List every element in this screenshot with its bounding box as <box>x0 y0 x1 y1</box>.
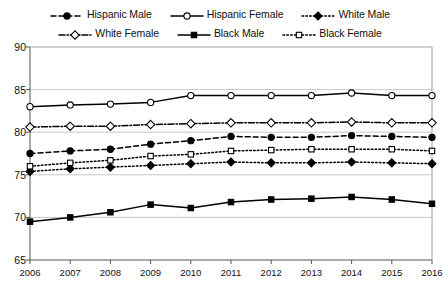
data-point-marker <box>146 120 154 128</box>
legend-item-white_female[interactable]: White Female <box>58 27 159 39</box>
data-point-marker <box>389 197 394 202</box>
data-point-marker <box>268 92 274 98</box>
data-point-marker <box>106 122 114 130</box>
legend-item-white_male[interactable]: White Male <box>301 8 390 20</box>
legend-row-2: White FemaleBlack MaleBlack Female <box>0 23 440 42</box>
series-white_female <box>26 118 436 132</box>
data-point-marker <box>187 160 195 168</box>
data-point-marker <box>187 119 195 127</box>
legend-label: White Female <box>95 27 159 39</box>
data-point-marker <box>269 197 274 202</box>
data-point-marker <box>297 32 302 37</box>
data-point-marker <box>227 119 235 127</box>
legend-label: Hispanic Male <box>87 8 152 20</box>
data-point-marker <box>107 101 113 107</box>
data-point-marker <box>188 152 193 157</box>
data-point-marker <box>268 134 274 140</box>
data-point-marker <box>429 134 435 140</box>
data-point-marker <box>66 122 74 130</box>
chart-legend: Hispanic MaleHispanic FemaleWhite Male W… <box>0 4 440 42</box>
data-point-marker <box>389 133 395 139</box>
data-point-marker <box>188 92 194 98</box>
data-point-marker <box>227 158 235 166</box>
dashdot-open-diamond-marker <box>58 27 92 39</box>
chart-canvas <box>0 42 440 283</box>
data-point-marker <box>429 148 434 153</box>
data-point-marker <box>389 147 394 152</box>
data-point-marker <box>309 196 314 201</box>
data-point-marker <box>388 159 396 167</box>
data-point-marker <box>191 32 196 37</box>
axes <box>26 47 432 264</box>
solid-filled-square-marker <box>177 27 211 39</box>
data-point-marker <box>428 160 436 168</box>
data-point-marker <box>228 92 234 98</box>
data-point-marker <box>68 215 73 220</box>
legend-item-hispanic_male[interactable]: Hispanic Male <box>50 8 152 20</box>
data-point-marker <box>108 210 113 215</box>
data-point-marker <box>267 119 275 127</box>
legend-label: Hispanic Female <box>207 8 284 20</box>
data-point-marker <box>148 141 154 147</box>
data-point-marker <box>27 104 33 110</box>
data-point-marker <box>148 99 154 105</box>
data-point-marker <box>267 159 275 167</box>
data-point-marker <box>188 138 194 144</box>
data-point-marker <box>429 201 434 206</box>
data-point-marker <box>107 146 113 152</box>
series-hispanic_female <box>27 90 435 110</box>
data-point-marker <box>348 158 356 166</box>
gridlines <box>30 47 432 217</box>
data-point-marker <box>349 147 354 152</box>
data-point-marker <box>148 202 153 207</box>
series-black_male <box>27 194 434 224</box>
data-point-marker <box>27 164 32 169</box>
solid-open-circle-marker <box>170 8 204 20</box>
data-point-marker <box>67 102 73 108</box>
data-point-marker <box>308 92 314 98</box>
data-point-marker <box>388 119 396 127</box>
data-point-marker <box>106 163 114 171</box>
legend-item-black_male[interactable]: Black Male <box>177 27 264 39</box>
data-point-marker <box>68 160 73 165</box>
dotted-open-square-marker <box>282 27 316 39</box>
data-point-marker <box>307 159 315 167</box>
data-point-marker <box>349 133 355 139</box>
data-point-marker <box>269 147 274 152</box>
data-point-marker <box>228 133 234 139</box>
legend-item-black_female[interactable]: Black Female <box>282 27 381 39</box>
data-point-marker <box>428 119 436 127</box>
data-point-marker <box>228 199 233 204</box>
legend-label: Black Female <box>319 27 381 39</box>
plot-area: 657075808590 200620072008200920102011201… <box>0 42 440 283</box>
data-point-marker <box>309 147 314 152</box>
data-point-marker <box>347 118 355 126</box>
legend-label: Black Male <box>214 27 264 39</box>
data-point-marker <box>27 150 33 156</box>
data-point-marker <box>64 12 70 18</box>
data-point-marker <box>307 119 315 127</box>
dashed-filled-circle-marker <box>50 8 84 20</box>
legend-item-hispanic_female[interactable]: Hispanic Female <box>170 8 284 20</box>
dotted-filled-diamond-marker <box>301 8 335 20</box>
series-white_male <box>26 158 436 175</box>
data-point-marker <box>389 92 395 98</box>
data-point-marker <box>27 219 32 224</box>
data-point-marker <box>26 123 34 131</box>
data-point-marker <box>108 158 113 163</box>
data-point-marker <box>349 194 354 199</box>
data-point-marker <box>349 90 355 96</box>
data-point-marker <box>71 30 79 38</box>
data-point-marker <box>429 92 435 98</box>
legend-label: White Male <box>338 8 390 20</box>
data-point-marker <box>148 153 153 158</box>
data-point-marker <box>184 12 190 18</box>
data-point-marker <box>228 148 233 153</box>
data-point-marker <box>147 161 155 169</box>
data-point-marker <box>314 12 322 20</box>
data-point-marker <box>188 205 193 210</box>
legend-row-1: Hispanic MaleHispanic FemaleWhite Male <box>0 4 440 23</box>
data-point-marker <box>67 148 73 154</box>
data-point-marker <box>308 134 314 140</box>
